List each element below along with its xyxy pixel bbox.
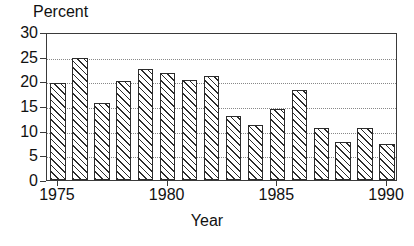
bar: [292, 90, 307, 180]
y-tick-mark: [40, 181, 46, 182]
bar: [160, 73, 175, 180]
y-tick-label: 15: [2, 99, 38, 115]
x-tick-label: 1975: [27, 186, 87, 204]
bar: [379, 144, 394, 180]
y-tick-label: 25: [2, 50, 38, 66]
bar: [94, 103, 109, 180]
bar-chart: Percent 051015202530 1975198019851990 Ye…: [0, 0, 414, 246]
x-axis-label: Year: [0, 212, 414, 230]
x-tick-label: 1980: [137, 186, 197, 204]
bar: [50, 83, 65, 180]
bar: [314, 128, 329, 180]
x-tick-label: 1985: [246, 186, 306, 204]
bar: [270, 109, 285, 180]
x-tick-label: 1990: [356, 186, 414, 204]
bar: [357, 128, 372, 180]
bar: [72, 58, 87, 180]
y-axis-label: Percent: [33, 3, 88, 21]
bar: [138, 69, 153, 180]
bar: [248, 125, 263, 180]
bar: [116, 81, 131, 180]
y-tick-label: 30: [2, 25, 38, 41]
plot-area: [46, 33, 397, 181]
y-tick-label: 20: [2, 74, 38, 90]
bar: [182, 80, 197, 180]
bar: [226, 116, 241, 180]
bar: [204, 76, 219, 180]
bar: [335, 142, 350, 180]
y-tick-label: 5: [2, 148, 38, 164]
y-tick-label: 10: [2, 124, 38, 140]
bars-layer: [47, 34, 396, 180]
